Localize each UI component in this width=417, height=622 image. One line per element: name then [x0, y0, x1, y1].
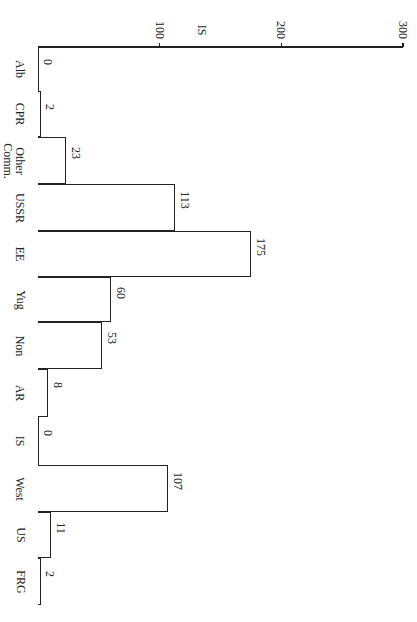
category-label: Alb	[14, 60, 26, 78]
value-label: 2	[44, 104, 56, 110]
category-label: USSR	[14, 192, 26, 222]
bar-ar	[38, 369, 48, 417]
value-label: 60	[115, 287, 127, 299]
value-axis-line	[38, 46, 403, 48]
tick-label: 100	[154, 21, 166, 39]
bar-west	[38, 465, 168, 512]
bar-us	[38, 512, 51, 558]
category-label: Non	[14, 335, 26, 356]
bar-other-comm-	[38, 137, 66, 184]
value-label: 0	[42, 430, 54, 436]
bar-ee	[38, 231, 251, 277]
value-label: 8	[52, 382, 64, 388]
category-label: IS	[14, 436, 26, 447]
value-label: 53	[106, 332, 118, 344]
value-label: 175	[255, 238, 267, 256]
value-label: 107	[172, 472, 184, 490]
bar-yug	[38, 277, 111, 322]
value-label: 11	[55, 522, 67, 534]
category-label: West	[14, 477, 26, 501]
category-label: AR	[14, 385, 26, 402]
value-label: 23	[70, 147, 82, 159]
value-label: 2	[44, 571, 56, 577]
axis-marker-label: IS	[196, 25, 208, 36]
category-label: Other Comm.	[2, 141, 26, 181]
bar-ussr	[38, 184, 175, 231]
value-label: 0	[42, 59, 54, 65]
category-label: EE	[14, 247, 26, 262]
bar-frg	[38, 558, 41, 605]
bar-non	[38, 322, 102, 369]
category-label: US	[14, 527, 26, 542]
tick-mark	[402, 43, 403, 47]
tick-label: 200	[275, 21, 287, 39]
category-label: Yug	[14, 290, 26, 309]
tick-label: 300	[397, 21, 409, 39]
bar-cpr	[38, 91, 41, 137]
value-label: 113	[179, 191, 191, 209]
category-label: CPR	[14, 103, 26, 126]
tick-mark	[159, 43, 160, 47]
tick-mark	[281, 43, 282, 47]
category-label: FRG	[14, 570, 26, 593]
